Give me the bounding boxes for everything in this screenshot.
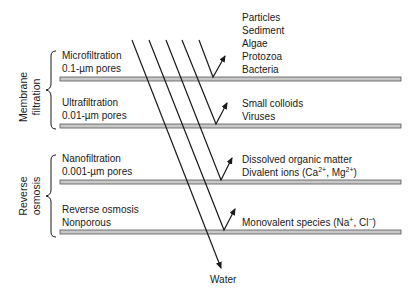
- membrane-name: Microfiltration: [62, 49, 121, 62]
- membrane-pore: Nonporous: [62, 216, 139, 229]
- rejected-item: Small colloids: [242, 97, 303, 110]
- membrane-reverse-osmosis: [60, 230, 401, 234]
- flow-line-rejected-ro: [149, 40, 235, 230]
- membrane-pore: 0.01-µm pores: [62, 109, 127, 122]
- brace-reverse-osmosis: [46, 155, 56, 237]
- membrane-label-ro: Reverse osmosis Nonporous: [62, 203, 139, 229]
- membrane-label-nano: Nanofiltration 0.001-µm pores: [62, 152, 132, 178]
- ion-text: Divalent ions (Ca: [242, 167, 318, 178]
- membrane-nanofiltration: [60, 180, 401, 184]
- membrane-label-ultra: Ultrafiltration 0.01-µm pores: [62, 96, 127, 122]
- group-label-line2: filtration: [30, 65, 43, 129]
- rejected-item-ions: Divalent ions (Ca2+, Mg2+): [242, 166, 357, 179]
- group-label-reverse-osmosis: Reverse osmosis: [17, 164, 43, 228]
- rejected-item-ions: Monovalent species (Na+, Cl−): [242, 216, 376, 229]
- membrane-name: Ultrafiltration: [62, 96, 127, 109]
- rejected-item: Protozoa: [242, 50, 284, 63]
- rejected-item: Sediment: [242, 24, 284, 37]
- group-label-line1: Membrane: [17, 65, 30, 129]
- membrane-name: Nanofiltration: [62, 152, 132, 165]
- brace-membrane-filtration: [46, 51, 56, 129]
- rejected-list-nano: Dissolved organic matter Divalent ions (…: [242, 153, 357, 179]
- ion-text: , Cl: [353, 217, 368, 228]
- membrane-label-micro: Microfiltration 0.1-µm pores: [62, 49, 121, 75]
- group-label-line2: osmosis: [30, 164, 43, 228]
- ion-text: , Mg: [326, 167, 345, 178]
- group-label-membrane-filtration: Membrane filtration: [17, 65, 43, 129]
- membrane-ultrafiltration: [60, 124, 401, 128]
- rejected-item: Dissolved organic matter: [242, 153, 357, 166]
- rejected-item: Viruses: [242, 110, 303, 123]
- ion-charge: 2+: [318, 166, 326, 173]
- membrane-microfiltration: [60, 77, 401, 81]
- rejected-item: Particles: [242, 11, 284, 24]
- flow-line-rejected-ultra: [182, 40, 227, 124]
- ion-text: Monovalent species (Na: [242, 217, 349, 228]
- flow-line-rejected-micro: [199, 40, 225, 77]
- rejected-list-ro: Monovalent species (Na+, Cl−): [242, 216, 376, 229]
- diagram-canvas: [0, 0, 415, 298]
- rejected-list-ultra: Small colloids Viruses: [242, 97, 303, 123]
- ion-text: ): [354, 167, 357, 178]
- water-label: Water: [210, 273, 236, 286]
- membrane-pore: 0.001-µm pores: [62, 165, 132, 178]
- membrane-pore: 0.1-µm pores: [62, 62, 121, 75]
- rejected-list-micro: Particles Sediment Algae Protozoa Bacter…: [242, 11, 284, 76]
- rejected-item: Bacteria: [242, 63, 284, 76]
- membrane-name: Reverse osmosis: [62, 203, 139, 216]
- ion-text: ): [372, 217, 375, 228]
- group-label-line1: Reverse: [17, 164, 30, 228]
- ion-charge: 2+: [346, 166, 354, 173]
- rejected-item: Algae: [242, 37, 284, 50]
